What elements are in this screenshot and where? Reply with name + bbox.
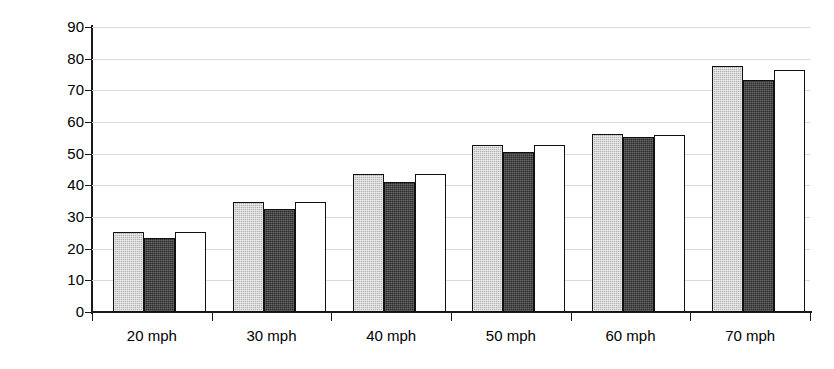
- y-tick-label-wrap: 60: [44, 114, 84, 129]
- bar: [654, 135, 685, 312]
- bar: [534, 145, 565, 312]
- y-tick-label-wrap: 70: [44, 82, 84, 97]
- y-tick-mark: [85, 154, 92, 155]
- bar: [503, 152, 534, 312]
- y-tick-label-wrap: 50: [44, 146, 84, 161]
- bar: [113, 232, 144, 312]
- bar: [384, 182, 415, 312]
- bar: [472, 145, 503, 312]
- bar: [592, 134, 623, 312]
- bar: [353, 174, 384, 312]
- bar: [774, 70, 805, 312]
- y-tick-label: 20: [50, 241, 84, 256]
- y-tick-label: 0: [50, 304, 84, 319]
- y-tick-label-wrap: 40: [44, 177, 84, 192]
- bar-group: [472, 27, 565, 312]
- bar: [175, 232, 206, 312]
- plot-area: [92, 27, 810, 312]
- x-tick-mark: [690, 313, 691, 321]
- x-tick-mark: [212, 313, 213, 321]
- y-tick-label-wrap: 0: [44, 304, 84, 319]
- bar-group: [592, 27, 685, 312]
- y-tick-mark: [85, 249, 92, 250]
- bar-group: [113, 27, 206, 312]
- y-tick-label: 40: [50, 177, 84, 192]
- y-tick-mark: [85, 90, 92, 91]
- y-tick-label-wrap: 80: [44, 51, 84, 66]
- bar: [743, 80, 774, 312]
- bar-group: [712, 27, 805, 312]
- bar: [712, 66, 743, 312]
- y-tick-label-wrap: 90: [44, 19, 84, 34]
- y-tick-mark: [85, 280, 92, 281]
- bar: [623, 137, 654, 312]
- y-tick-mark: [85, 27, 92, 28]
- bar-chart-figure: 85th percentile of vehicle speed 9080706…: [0, 0, 834, 369]
- y-tick-mark: [85, 59, 92, 60]
- x-tick-mark: [810, 313, 811, 321]
- bar-group: [353, 27, 446, 312]
- bar: [233, 202, 264, 312]
- x-tick-mark: [331, 313, 332, 321]
- bar: [415, 174, 446, 312]
- y-tick-label: 10: [50, 272, 84, 287]
- x-tick-mark: [451, 313, 452, 321]
- y-tick-label-wrap: 20: [44, 241, 84, 256]
- bar: [264, 209, 295, 312]
- y-tick-label: 90: [50, 19, 84, 34]
- y-tick-mark: [85, 217, 92, 218]
- bar-group: [233, 27, 326, 312]
- y-tick-label: 50: [50, 146, 84, 161]
- y-tick-mark: [85, 185, 92, 186]
- y-tick-mark: [85, 312, 92, 313]
- x-tick-mark: [92, 313, 93, 321]
- y-tick-label-wrap: 10: [44, 272, 84, 287]
- y-tick-label-wrap: 30: [44, 209, 84, 224]
- bar: [295, 202, 326, 312]
- bar: [144, 238, 175, 312]
- x-tick-mark: [571, 313, 572, 321]
- y-tick-label: 30: [50, 209, 84, 224]
- y-tick-label: 80: [50, 51, 84, 66]
- y-tick-mark: [85, 122, 92, 123]
- y-tick-label: 70: [50, 82, 84, 97]
- y-tick-label: 60: [50, 114, 84, 129]
- x-category-label: 70 mph: [680, 327, 820, 345]
